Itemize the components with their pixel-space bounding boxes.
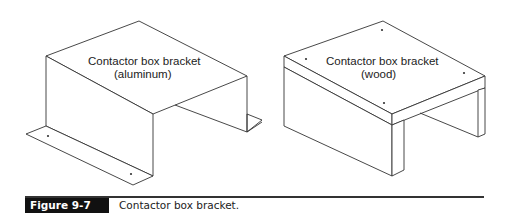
wood-label-line2: (wood) (361, 68, 396, 80)
aluminum-label-line1: Contactor box bracket (88, 55, 201, 67)
aluminum-label-line2: (aluminum) (114, 68, 172, 80)
figure-number-tag: Figure 9-7 (25, 198, 109, 213)
figure-caption: Contactor box bracket. (119, 198, 239, 213)
bracket-illustrations: Contactor box bracket (aluminum) Contact… (0, 0, 510, 224)
aluminum-bracket-drawing (26, 21, 262, 185)
wood-label-line1: Contactor box bracket (326, 55, 439, 67)
wood-bracket-drawing (284, 21, 485, 176)
